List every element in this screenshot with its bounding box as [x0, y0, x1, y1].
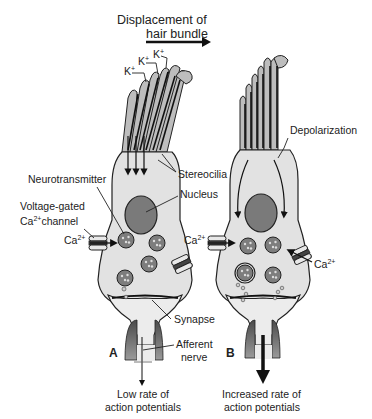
hair-cell-diagram: Displacement of hair bundle K+ [0, 0, 372, 419]
label-nerve: nerve [181, 351, 207, 363]
panel-label-b: B [226, 346, 235, 360]
nucleus-b [245, 194, 277, 232]
panel-a: K+ K+ K+ [20, 48, 227, 413]
label-ca-ion-a: Ca2+ [64, 234, 85, 246]
k-ion-1: K+ [124, 65, 135, 77]
vesicle-icon [118, 232, 134, 248]
output-b-line2: action potentials [224, 401, 300, 413]
nucleus-a [125, 196, 157, 234]
vesicle-fusing-icon [235, 263, 255, 283]
output-a-line2: action potentials [105, 401, 181, 413]
title-line2: hair bundle [146, 27, 208, 41]
k-ion-2: K+ [138, 55, 149, 67]
label-depolarization: Depolarization [290, 124, 357, 136]
label-voltage-gated: Voltage-gated [20, 200, 85, 212]
label-ca-ion-b-left: Ca2+ [184, 234, 205, 246]
title-line1: Displacement of [117, 13, 207, 27]
vesicle-icon [117, 270, 133, 286]
label-afferent: Afferent [176, 338, 213, 350]
vesicle-icon [149, 235, 165, 251]
stereocilia-bundle-b [240, 55, 288, 150]
k-ion-3: K+ [153, 48, 164, 60]
panel-label-a: A [109, 346, 118, 360]
label-nucleus: Nucleus [180, 188, 218, 200]
high-rate-arrow-icon [256, 370, 270, 384]
afferent-terminal-a [108, 295, 182, 345]
title: Displacement of hair bundle [117, 13, 211, 47]
output-a-line1: Low rate of [117, 388, 169, 400]
label-ca-ion-b-right: Ca2+ [314, 258, 335, 270]
vesicle-icon [265, 267, 281, 283]
label-stereocilia: Stereocilia [178, 168, 227, 180]
vesicle-icon [240, 238, 256, 254]
label-neurotransmitter: Neurotransmitter [28, 173, 107, 185]
output-b-line1: Increased rate of [222, 388, 301, 400]
vesicle-icon [265, 237, 281, 253]
label-ca-channel: Ca2+channel [20, 215, 78, 227]
vesicle-icon [141, 256, 157, 272]
label-synapse: Synapse [174, 313, 215, 325]
panel-b: Depolarization Ca2+ Ca2+ B Increased rat… [184, 55, 357, 413]
